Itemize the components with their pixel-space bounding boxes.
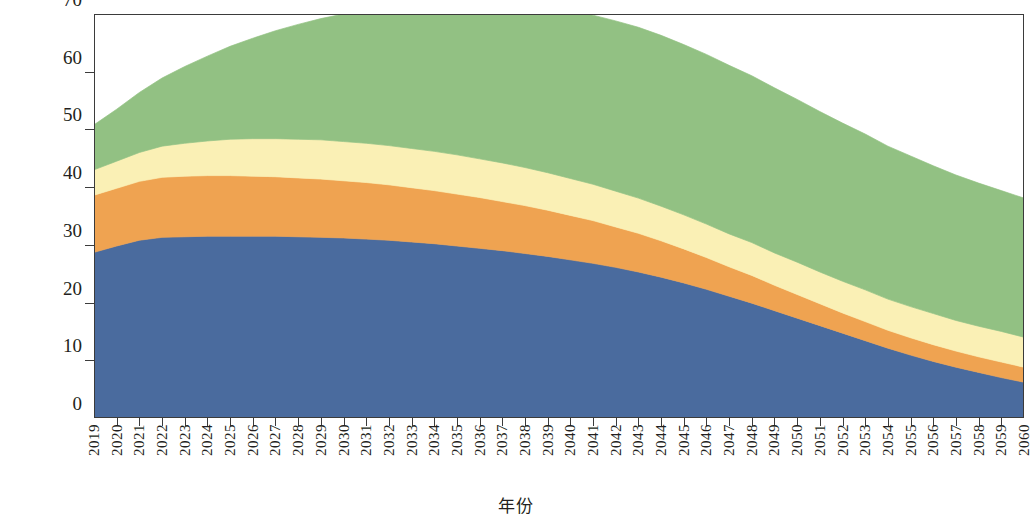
- x-axis-labels: 2019202020212022202320242025202620272028…: [94, 424, 1024, 488]
- x-axis-tick-label: 2044: [653, 424, 669, 486]
- x-axis-tick-label: 2055: [903, 424, 919, 486]
- x-axis-tick-label: 2052: [835, 424, 851, 486]
- x-axis-tick-label: 2035: [449, 424, 465, 486]
- x-axis-tick-label: 2032: [381, 424, 397, 486]
- x-axis-tick-label: 2026: [245, 424, 261, 486]
- x-axis-tick-label: 2036: [472, 424, 488, 486]
- x-axis-tick-label: 2043: [630, 424, 646, 486]
- x-axis-tick-label: 2027: [267, 424, 283, 486]
- x-axis-tick-label: 2046: [698, 424, 714, 486]
- y-axis-labels: 010203040506070: [28, 0, 82, 404]
- x-axis-tick-label: 2060: [1016, 424, 1031, 486]
- x-axis-tick-label: 2033: [404, 424, 420, 486]
- x-axis-tick-label: 2019: [86, 424, 102, 486]
- y-axis-tick-label: 50: [38, 105, 82, 124]
- x-axis-tick-label: 2050: [789, 424, 805, 486]
- stacked-area-series: [94, 14, 1024, 418]
- y-axis-tick-label: 70: [38, 0, 82, 9]
- y-axis-tick: [85, 360, 94, 361]
- x-axis-tick-label: 2029: [313, 424, 329, 486]
- x-axis-tick-label: 2045: [676, 424, 692, 486]
- x-axis-tick-label: 2040: [562, 424, 578, 486]
- x-axis-tick-label: 2048: [744, 424, 760, 486]
- x-axis-tick-label: 2038: [517, 424, 533, 486]
- y-axis-tick: [85, 72, 94, 73]
- x-axis-tick-label: 2021: [131, 424, 147, 486]
- x-axis-tick-label: 2034: [426, 424, 442, 486]
- y-axis-tick-label: 40: [38, 163, 82, 182]
- x-axis-tick-label: 2020: [109, 424, 125, 486]
- y-axis-tick-label: 20: [38, 279, 82, 298]
- x-axis-tick-label: 2049: [766, 424, 782, 486]
- x-axis-tick-label: 2022: [154, 424, 170, 486]
- chart-figure: 供给总量/亿吨标准煤 010203040506070 2019202020212…: [0, 0, 1031, 522]
- y-axis-tick-label: 10: [38, 336, 82, 355]
- x-axis-tick-label: 2039: [540, 424, 556, 486]
- x-axis-tick-label: 2024: [199, 424, 215, 486]
- x-axis-tick-label: 2059: [993, 424, 1009, 486]
- x-axis-tick-label: 2047: [721, 424, 737, 486]
- x-axis-tick-label: 2041: [585, 424, 601, 486]
- x-axis-title: 年份: [0, 492, 1031, 517]
- x-axis-tick-label: 2057: [948, 424, 964, 486]
- y-axis-tick-label: 0: [38, 394, 82, 413]
- y-axis-tick: [85, 129, 94, 130]
- y-axis-tick-label: 30: [38, 221, 82, 240]
- y-axis-tick-label: 60: [38, 48, 82, 67]
- x-axis-tick-label: 2031: [358, 424, 374, 486]
- x-axis-tick-label: 2030: [336, 424, 352, 486]
- y-axis-tick: [85, 245, 94, 246]
- x-axis-tick-label: 2058: [971, 424, 987, 486]
- x-axis-tick-label: 2042: [608, 424, 624, 486]
- x-axis-tick-label: 2037: [494, 424, 510, 486]
- x-axis-tick-label: 2025: [222, 424, 238, 486]
- x-axis-tick-label: 2051: [812, 424, 828, 486]
- x-axis-tick-label: 2028: [290, 424, 306, 486]
- y-axis-tick: [85, 187, 94, 188]
- y-axis-tick: [85, 303, 94, 304]
- plot-area: [94, 14, 1024, 418]
- x-axis-tick-label: 2056: [925, 424, 941, 486]
- x-axis-tick-label: 2023: [177, 424, 193, 486]
- x-axis-tick-label: 2054: [880, 424, 896, 486]
- x-axis-tick-label: 2053: [857, 424, 873, 486]
